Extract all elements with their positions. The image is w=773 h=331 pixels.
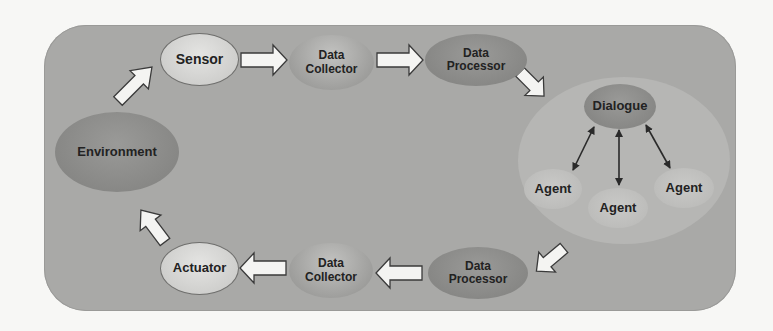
node-data-collector-top: Data Collector [289, 35, 374, 90]
node-data-processor-top: Data Processor [425, 34, 527, 86]
node-agent-right: Agent [654, 168, 714, 208]
node-actuator: Actuator [160, 242, 239, 295]
node-label: Data Collector [305, 257, 357, 284]
node-agent-center: Agent [588, 188, 648, 228]
node-label: Environment [77, 145, 156, 160]
node-label: Data Processor [447, 47, 506, 74]
node-label: Data Processor [449, 260, 508, 287]
arrow-dialogue-to-processor [528, 238, 572, 281]
arrow-processor-to-collector [376, 258, 422, 288]
arrow-environment-to-sensor [109, 58, 161, 110]
node-label: Dialogue [593, 99, 648, 114]
node-label: Agent [666, 181, 703, 196]
node-label: Agent [600, 201, 637, 216]
link-dialogue-agent-left [573, 127, 594, 170]
node-label: Data Collector [305, 49, 357, 76]
node-label: Actuator [173, 261, 226, 276]
node-data-processor-bottom: Data Processor [428, 247, 528, 299]
node-dialogue: Dialogue [584, 84, 656, 129]
node-data-collector-bottom: Data Collector [289, 243, 373, 298]
node-sensor: Sensor [160, 33, 239, 86]
link-dialogue-agent-right [646, 125, 670, 168]
node-label: Agent [535, 182, 572, 197]
node-label: Sensor [176, 52, 223, 68]
arrow-sensor-to-collector [241, 45, 287, 75]
arrow-collector-to-actuator [240, 253, 286, 283]
arrow-actuator-to-environment [131, 202, 176, 250]
node-agent-left: Agent [524, 169, 582, 209]
arrow-collector-to-processor [377, 45, 423, 75]
node-environment: Environment [55, 112, 179, 192]
